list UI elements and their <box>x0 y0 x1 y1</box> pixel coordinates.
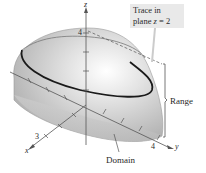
y-axis-arrow <box>167 145 174 149</box>
callout-pointer <box>152 28 155 62</box>
z-tick-label: 4 <box>78 28 82 38</box>
x-axis-label: x <box>25 146 29 156</box>
x-tick-label: 3 <box>35 132 39 142</box>
callout-line-1: Trace in <box>133 5 181 16</box>
domain-label: Domain <box>106 155 135 165</box>
callout-line-2: plane z = 2 <box>133 16 181 27</box>
diagram-canvas: Trace in plane z = 2 z 4 3 x 4 y Range D… <box>0 0 206 173</box>
range-label: Range <box>170 96 193 106</box>
range-bracket <box>163 64 167 137</box>
trace-callout: Trace in plane z = 2 <box>130 4 184 28</box>
z-axis-label: z <box>84 0 87 10</box>
y-axis-label: y <box>175 142 179 152</box>
y-tick-label: 4 <box>151 142 155 152</box>
